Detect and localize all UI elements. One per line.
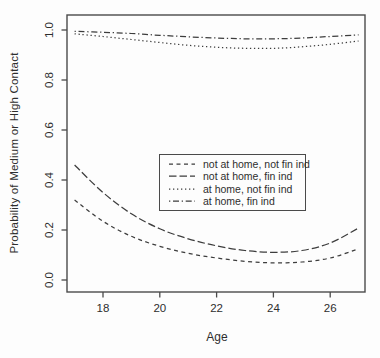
- y-tick-label: 1.0: [43, 22, 55, 38]
- x-tick-label: 18: [97, 302, 110, 314]
- legend-line-sample-dashed: [169, 160, 195, 168]
- curve-at-home-fin-ind: [75, 31, 359, 39]
- x-tick-label: 22: [210, 302, 223, 314]
- legend-row: at home, fin ind: [169, 195, 305, 207]
- legend-label: not at home, not fin ind: [203, 158, 310, 170]
- x-tick-label: 20: [153, 302, 166, 314]
- y-tick-label: 0.0: [43, 272, 55, 288]
- y-tick-label: 0.6: [43, 122, 55, 138]
- legend: not at home, not fin indnot at home, fin…: [159, 154, 306, 211]
- x-tick-label: 24: [267, 302, 280, 314]
- y-tick-label: 0.8: [43, 72, 55, 88]
- x-axis-title: Age: [206, 330, 227, 344]
- legend-line-sample-dotted: [169, 185, 195, 193]
- x-tick-label: 26: [324, 302, 337, 314]
- legend-label: at home, not fin ind: [203, 183, 292, 195]
- curve-at-home-not-fin-ind: [75, 34, 359, 49]
- y-tick-label: 0.4: [43, 171, 55, 188]
- y-tick-label: 0.2: [43, 222, 55, 238]
- legend-line-sample-dotdash: [169, 197, 195, 205]
- legend-label: at home, fin ind: [203, 195, 275, 207]
- figure: 18202224260.00.20.40.60.81.0 Probability…: [0, 0, 380, 358]
- legend-row: at home, not fin ind: [169, 183, 305, 195]
- legend-label: not at home, fin ind: [203, 170, 292, 182]
- legend-row: not at home, fin ind: [169, 170, 305, 182]
- legend-row: not at home, not fin ind: [169, 158, 305, 170]
- legend-line-sample-longdash: [169, 172, 195, 180]
- y-axis-title: Probability of Medium or High Contact: [8, 52, 20, 253]
